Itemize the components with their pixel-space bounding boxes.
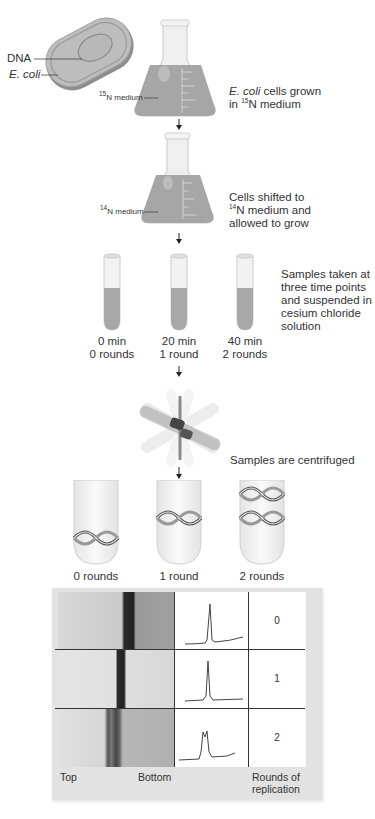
tube-0-label: 0 min0 rounds [77,335,147,361]
sample-tube-2-icon [237,254,253,330]
ecoli-label: E. coli [9,68,40,81]
step4-caption: Samples are centrifuged [230,454,355,467]
step1-caption: E. coli cells grown in 15N medium [229,85,321,111]
density-peak-row-1 [185,661,243,701]
band-image-row-2 [58,709,174,767]
gradient-tube-2-icon [240,480,284,564]
bottom-label: Bottom [138,771,171,784]
gradient-tube-1-icon [157,480,201,564]
sample-tube-0-icon [104,254,120,330]
rounds-of-replication-label: Rounds of replication [252,771,300,795]
arrow-down-icon [176,467,182,479]
arrow-down-icon [176,233,182,244]
density-plots [175,592,248,767]
step2-caption: Cells shifted to 14N medium and allowed … [229,191,311,230]
step3-caption: Samples taken at three time points and s… [281,268,372,333]
step4-illustration [100,385,375,485]
step2-illustration [0,125,375,255]
band-image-row-1 [58,650,174,708]
ecoli-cell-icon [36,9,143,100]
arrow-down-icon [176,366,182,377]
sample-tube-1-icon [171,254,187,330]
density-peak-row-2 [179,731,235,760]
gradient-tube-1-label: 1 round [144,570,214,583]
grid-line [55,708,305,709]
step5-illustration [0,480,375,570]
gradient-tube-0-icon [74,480,118,564]
round-number-2: 2 [242,732,312,743]
grid-line [174,592,175,767]
flask-15n-icon [135,20,216,116]
round-number-1: 1 [242,673,312,684]
tube-1-label: 20 min1 round [144,335,214,361]
results-panel: 0 1 2 Top Bottom Rounds of replication [52,588,322,800]
top-label: Top [60,771,77,784]
tube-2-label: 40 min2 rounds [210,335,280,361]
centrifuge-icon [138,388,223,468]
round-number-0: 0 [242,615,312,626]
medium-14n-label: 14N medium [100,207,144,216]
dna-label: DNA [7,52,31,65]
flask-14n-icon [142,133,214,223]
grid-line [55,649,305,650]
gradient-tube-0-label: 0 rounds [61,570,131,583]
band-image-row-0 [58,592,174,649]
gradient-tube-2-label: 2 rounds [227,570,297,583]
medium-15n-label: 15N medium [99,93,143,102]
density-peak-row-0 [185,604,243,644]
